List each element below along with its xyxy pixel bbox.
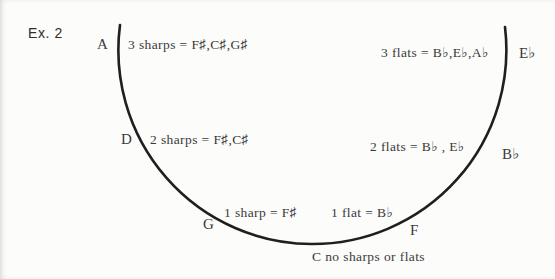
annotation-two-flats: 2 flats = B♭ , E♭ xyxy=(370,140,465,154)
note-label-g: G xyxy=(203,217,214,232)
note-label-a: A xyxy=(97,37,108,52)
example-label: Ex. 2 xyxy=(28,26,63,40)
note-label-d: D xyxy=(121,132,132,147)
note-label-f: F xyxy=(410,223,419,238)
annotation-two-sharps: 2 sharps = F♯,C♯ xyxy=(150,133,249,147)
note-label-b-flat: B♭ xyxy=(502,147,519,162)
music-theory-figure: Ex. 2 A 3 sharps = F♯,C♯,G♯ 3 flats = B♭… xyxy=(0,0,555,279)
annotation-c-no-sharps-or-flats: C no sharps or flats xyxy=(312,250,425,264)
annotation-one-sharp: 1 sharp = F♯ xyxy=(224,206,297,220)
note-label-e-flat: E♭ xyxy=(519,46,536,61)
annotation-three-sharps: 3 sharps = F♯,C♯,G♯ xyxy=(128,38,248,52)
circle-of-fifths-arc xyxy=(0,0,555,279)
annotation-three-flats: 3 flats = B♭,E♭,A♭ xyxy=(381,46,489,60)
annotation-one-flat: 1 flat = B♭ xyxy=(331,206,393,220)
